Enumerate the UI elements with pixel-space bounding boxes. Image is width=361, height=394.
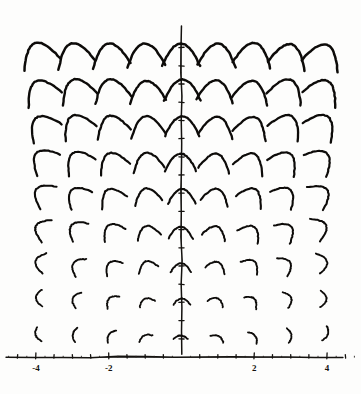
direction-field-arc bbox=[140, 298, 155, 307]
direction-field-arc bbox=[29, 80, 62, 108]
direction-field-arc bbox=[237, 226, 258, 244]
direction-field-arc bbox=[277, 258, 291, 276]
direction-field-arc bbox=[130, 81, 166, 104]
direction-field-arc bbox=[320, 291, 327, 307]
x-axis-tick-label: 4 bbox=[325, 363, 330, 373]
direction-field-arc bbox=[134, 153, 165, 174]
direction-field-arc bbox=[35, 186, 57, 210]
direction-field-arc bbox=[198, 117, 232, 139]
direction-field-arc bbox=[197, 44, 235, 68]
direction-field-arc bbox=[72, 293, 81, 309]
direction-field-arc bbox=[65, 115, 96, 141]
direction-field-arc bbox=[233, 43, 270, 69]
direction-field-arc bbox=[287, 328, 292, 342]
direction-field-arc bbox=[303, 115, 333, 143]
direction-field-arc bbox=[24, 43, 60, 71]
direction-field-arc bbox=[205, 262, 224, 275]
direction-field-arc bbox=[135, 188, 162, 206]
direction-field-arc bbox=[68, 152, 95, 177]
direction-field-arc bbox=[98, 115, 131, 139]
direction-field-arc bbox=[139, 261, 158, 274]
direction-field-arc bbox=[58, 43, 95, 70]
direction-field-plot: -4-224 bbox=[0, 0, 361, 394]
direction-field-arc bbox=[244, 297, 256, 310]
direction-field-arc bbox=[201, 188, 228, 206]
direction-field-arc bbox=[35, 327, 41, 341]
direction-field-arc bbox=[171, 263, 192, 272]
direction-field-arc bbox=[73, 328, 78, 342]
direction-field-arc bbox=[131, 116, 165, 139]
direction-field-arc bbox=[104, 224, 125, 242]
direction-field-arc bbox=[274, 224, 293, 244]
direction-field-arc bbox=[268, 44, 304, 71]
direction-field-arc bbox=[63, 79, 97, 106]
direction-field-arc bbox=[165, 116, 199, 136]
direction-field-arc bbox=[196, 80, 232, 103]
direction-field-arc bbox=[302, 80, 335, 108]
direction-field-arc bbox=[34, 150, 60, 176]
direction-field-arc bbox=[106, 261, 122, 276]
x-axis-tick-label: 2 bbox=[252, 363, 257, 373]
direction-field-arc bbox=[232, 117, 265, 141]
direction-field-arc bbox=[304, 151, 330, 177]
direction-field-arc bbox=[101, 153, 130, 176]
direction-field-arc bbox=[310, 219, 327, 242]
direction-field-arc bbox=[283, 292, 292, 308]
direction-field-arc bbox=[270, 188, 293, 210]
direction-field-arc bbox=[127, 44, 165, 68]
direction-field-arc bbox=[267, 115, 298, 141]
direction-field-arc bbox=[93, 43, 131, 68]
direction-field-arc bbox=[267, 79, 301, 105]
slope-field-figure: -4-224 bbox=[0, 0, 361, 394]
direction-field-arc bbox=[202, 226, 225, 241]
direction-field-arc bbox=[302, 45, 338, 73]
direction-field-arc bbox=[32, 116, 62, 143]
x-axis-tick-label: -4 bbox=[32, 363, 40, 373]
direction-field-arc bbox=[168, 189, 196, 204]
direction-field-arc bbox=[95, 79, 131, 104]
direction-field-arc bbox=[307, 186, 329, 210]
direction-field-arc bbox=[233, 153, 262, 176]
direction-field-arc bbox=[322, 326, 328, 340]
x-axis-tick-label: -2 bbox=[105, 363, 113, 373]
direction-field-arc bbox=[138, 226, 161, 241]
direction-field-arc bbox=[72, 259, 86, 277]
direction-field-arc bbox=[248, 332, 257, 343]
direction-field-arc bbox=[35, 253, 46, 274]
direction-field-arc bbox=[236, 188, 261, 209]
y-axis-line bbox=[181, 26, 182, 354]
direction-field-arc bbox=[102, 189, 127, 210]
x-axis-line bbox=[6, 356, 343, 357]
direction-field-arc bbox=[107, 331, 116, 343]
direction-field-arc bbox=[139, 334, 152, 342]
direction-field-arc bbox=[232, 81, 267, 106]
direction-field-arc bbox=[69, 188, 92, 210]
direction-field-arc bbox=[35, 220, 52, 242]
direction-field-arc bbox=[36, 290, 43, 306]
direction-field-arc bbox=[241, 260, 258, 275]
direction-field-arc bbox=[70, 222, 89, 242]
direction-field-arc bbox=[208, 298, 223, 308]
direction-field-arc bbox=[316, 254, 328, 274]
direction-field-arc bbox=[267, 152, 295, 177]
direction-field-arc bbox=[210, 335, 223, 343]
direction-field-arc bbox=[107, 296, 119, 309]
direction-field-arc bbox=[198, 153, 229, 173]
